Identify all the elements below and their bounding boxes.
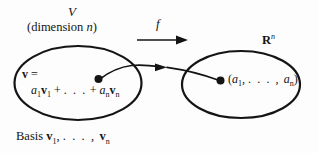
vector-point-dot [95,75,103,83]
codomain-name-label: Rn [262,33,275,47]
element-correspondence-arrow [100,63,218,80]
tuple-ellipsis: . . . , [248,72,280,86]
image-point-dot [217,77,225,85]
dimension-text: (dimension [27,20,86,34]
basis-prefix: Basis [16,129,46,143]
plus-operator-2: + [87,83,100,97]
vector-expansion-label: a1v1 + . . . + anvn [31,84,120,99]
dimension-close-paren: ) [93,20,97,34]
codomain-exponent: n [271,32,275,41]
domain-dimension-label: (dimension n) [27,21,97,34]
domain-name-label: V [68,5,76,18]
vector-lhs-label: v = [22,68,38,80]
equals-sign: = [28,67,38,81]
coordinate-tuple-label: (a1, . . . , an) [228,73,298,88]
map-name-label: f [156,17,160,30]
basis-caption-subscript-n: n [106,137,110,146]
expansion-ellipsis: . . . [64,83,87,97]
map-arrow [137,36,188,45]
tuple-close-paren: ) [294,72,298,86]
basis-caption-label: Basis v1, . . . , vn [16,130,110,146]
plus-operator-1: + [51,83,64,97]
basis-vector-n-subscript: n [116,90,120,99]
basis-caption-ellipsis: . . . , [63,129,96,143]
vector-space-coordinate-diagram: V (dimension n) f Rn v = a1v1 + . . . + … [0,0,318,153]
codomain-symbol: R [262,33,271,47]
